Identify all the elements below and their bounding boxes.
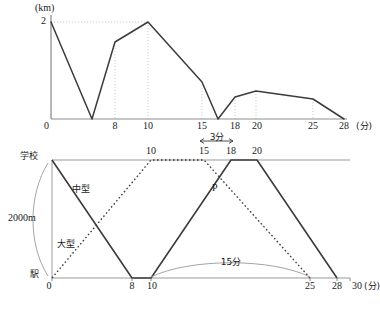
upper-x-tick-0: 0 [44,121,49,131]
figure-svg [0,0,380,311]
lower-bottom-tick-28: 28 [332,281,342,291]
upper-x-unit-label: (分) [356,122,372,131]
lower-station-label: 駅 [30,270,39,279]
upper-y-axis-unit-label: (km) [35,3,54,13]
lower-chart-group [33,139,350,281]
lower-bottom-tick-8: 8 [130,281,135,291]
figure-container: (km) 2 0 8 10 15 18 20 25 28 (分) 学校 駅 20… [0,0,380,311]
series-chugata-label: 中型 [72,185,90,194]
lower-x-unit-label: (分) [364,282,380,291]
upper-x-tick-28: 28 [339,121,349,131]
series-ogata-label: 大型 [57,240,75,249]
lower-distance-label: 2000m [8,213,36,223]
point-p-label: P [212,183,218,193]
lower-bottom-tick-0: 0 [47,281,52,291]
lower-top-tick-10: 10 [146,146,156,156]
upper-x-tick-15: 15 [197,121,207,131]
span-15min-label: 15分 [221,258,241,267]
upper-x-tick-20: 20 [252,121,262,131]
upper-chart-group [51,15,347,119]
lower-top-tick-15: 15 [199,146,209,156]
upper-x-tick-18: 18 [230,121,240,131]
upper-chart-series-line [51,22,344,119]
lower-bottom-tick-10: 10 [147,281,157,291]
upper-x-tick-10: 10 [143,121,153,131]
span-3min-label: 3分 [210,133,225,142]
upper-x-tick-25: 25 [308,121,318,131]
upper-chart-guides [51,22,313,119]
lower-top-tick-18: 18 [226,146,236,156]
series-chugata-line [52,160,337,278]
lower-top-tick-20: 20 [252,146,262,156]
upper-x-tick-8: 8 [113,121,118,131]
lower-bottom-tick-25: 25 [305,281,315,291]
lower-bottom-tick-30: 30 [352,281,362,291]
lower-school-label: 学校 [20,152,38,161]
upper-y-tick-2: 2 [41,16,46,26]
series-ogata-line [52,160,310,278]
